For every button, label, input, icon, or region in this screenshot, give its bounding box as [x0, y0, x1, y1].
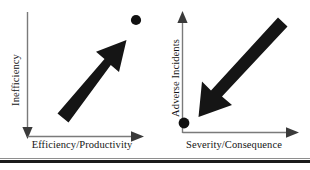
trend-arrow-up-right-icon — [58, 40, 127, 123]
bottom-rule — [0, 160, 310, 163]
chart-panel-right: Adverse Incidents Severity/Consequence — [155, 0, 310, 150]
figure-root: Inefficiency Efficiency/Productivity Adv… — [0, 0, 310, 170]
x-axis-label-left: Efficiency/Productivity — [18, 139, 146, 151]
chart-panel-left: Inefficiency Efficiency/Productivity — [0, 0, 155, 150]
y-axis-label-left: Inefficiency — [10, 32, 22, 128]
y-axis-label-right: Adverse Incidents — [170, 23, 182, 133]
bottom-rule-hairline — [0, 158, 310, 159]
x-axis-label-right: Severity/Consequence — [169, 139, 299, 151]
x-axis-arrowhead-right-icon — [286, 127, 299, 138]
trend-arrow-down-left-icon — [199, 18, 288, 118]
chart-graphic-left — [0, 0, 155, 150]
y-axis-arrowhead-up-icon — [177, 11, 187, 23]
data-point-marker — [131, 15, 141, 25]
